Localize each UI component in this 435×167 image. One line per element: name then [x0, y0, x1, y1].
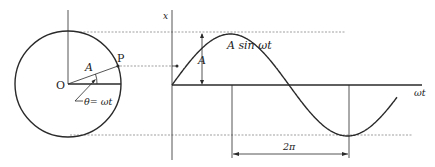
amplitude-arrowhead-top [200, 33, 204, 38]
angle-label: θ= ωt [84, 96, 112, 107]
shm-diagram: O P A θ= ωt x ωt A A sin ωt 2π [0, 0, 435, 167]
x-axis-label: ωt [414, 87, 426, 98]
curve-label: A sin ωt [226, 39, 272, 52]
amplitude-arrowhead-bottom [200, 80, 204, 85]
amplitude-label: A [197, 54, 206, 67]
period-arrowhead-right [342, 152, 348, 156]
point-label: P [117, 52, 125, 65]
angle-arc [96, 74, 98, 84]
radius-label: A [84, 61, 93, 74]
period-label: 2π [282, 141, 296, 152]
origin-label: O [56, 79, 65, 92]
period-arrowhead-left [233, 152, 239, 156]
y-axis-label: x [163, 11, 168, 21]
